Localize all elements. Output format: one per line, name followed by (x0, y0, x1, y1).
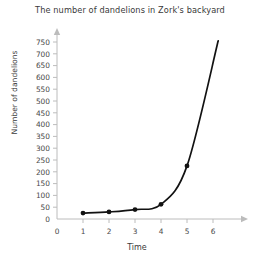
x-axis-arrowhead (241, 216, 248, 222)
chart-plot: 0501001502002503003504004505005506006507… (0, 0, 260, 267)
y-tick-label: 600 (36, 73, 50, 82)
data-point-marker (107, 210, 112, 215)
y-tick-label: 500 (36, 97, 50, 106)
y-tick-label: 700 (36, 50, 50, 59)
x-tick-label: 5 (185, 227, 190, 236)
y-tick-label: 50 (41, 203, 51, 212)
y-tick-label: 150 (36, 179, 50, 188)
y-tick-label: 250 (36, 156, 50, 165)
y-tick-label: 200 (36, 168, 50, 177)
y-tick-label: 350 (36, 132, 50, 141)
x-tick-label: 2 (107, 227, 112, 236)
y-tick-label: 750 (36, 38, 50, 47)
y-axis-ticks: 0501001502002503003504004505005506006507… (36, 38, 57, 224)
x-tick-label: 1 (81, 227, 86, 236)
y-axis-arrowhead (54, 28, 60, 35)
x-axis-ticks: 0123456 (55, 219, 216, 236)
y-tick-label: 450 (36, 109, 50, 118)
y-tick-label: 650 (36, 61, 50, 70)
x-tick-label: 6 (211, 227, 216, 236)
data-series-line (83, 41, 218, 213)
chart-container: The number of dandelions in Zork's backy… (0, 0, 260, 267)
data-point-markers (81, 164, 190, 216)
y-tick-label: 0 (45, 215, 50, 224)
data-point-marker (133, 207, 138, 212)
data-point-marker (159, 202, 164, 207)
y-tick-label: 550 (36, 85, 50, 94)
x-tick-label: 3 (133, 227, 138, 236)
y-tick-label: 100 (36, 191, 50, 200)
data-point-marker (185, 164, 190, 169)
x-tick-label: 4 (159, 227, 164, 236)
x-tick-label: 0 (55, 227, 60, 236)
y-tick-label: 400 (36, 120, 50, 129)
y-tick-label: 300 (36, 144, 50, 153)
data-point-marker (81, 211, 86, 216)
